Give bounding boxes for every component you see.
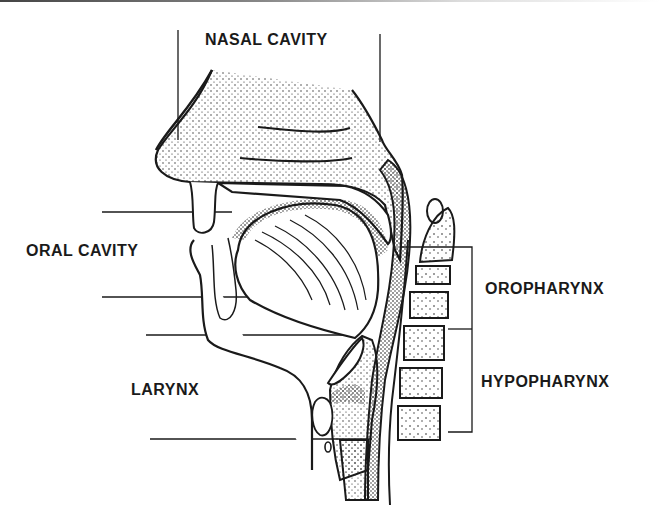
vertebra-c4	[404, 326, 444, 360]
vertebra-c5	[400, 368, 442, 398]
label-hypopharynx: HYPOPHARYNX	[481, 373, 609, 391]
label-oral-cavity: ORAL CAVITY	[26, 242, 138, 260]
trachea	[340, 440, 368, 500]
thyroid-cartilage	[312, 398, 332, 436]
upper-lip	[190, 182, 218, 233]
label-nasal-cavity: NASAL CAVITY	[205, 31, 328, 49]
label-oropharynx: OROPHARYNX	[485, 280, 604, 298]
cricoid-ring	[325, 442, 331, 452]
vertebra-c3	[410, 292, 448, 318]
label-larynx: LARYNX	[131, 381, 199, 399]
dens	[420, 208, 454, 262]
vertebra-c2	[416, 266, 450, 284]
vertebra-c6	[398, 406, 440, 440]
